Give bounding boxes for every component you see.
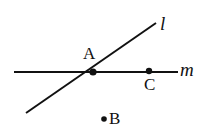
geometry-figure: A C B l m [0, 0, 207, 133]
point-A-dot [89, 68, 96, 75]
line-label-m: m [180, 60, 194, 79]
point-label-b: B [109, 110, 120, 127]
point-label-c: C [144, 76, 155, 93]
point-C-dot [146, 68, 152, 74]
point-label-a: A [83, 45, 95, 62]
geometry-canvas [0, 0, 207, 133]
line-label-l: l [160, 14, 165, 33]
point-B-dot [101, 116, 107, 122]
line-l [26, 23, 156, 113]
